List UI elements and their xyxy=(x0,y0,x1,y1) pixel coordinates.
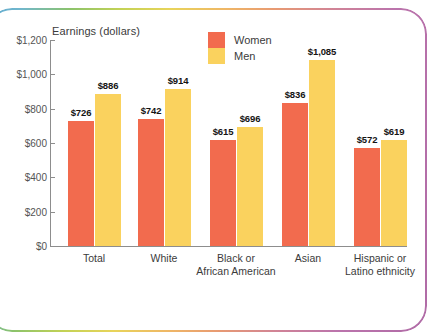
bar-women[interactable] xyxy=(210,140,236,246)
x-axis-label-line: African American xyxy=(196,265,275,278)
bar-value-label: $615 xyxy=(213,126,234,137)
legend-swatch-icon xyxy=(208,32,225,48)
x-axis-category-label: Black orAfrican American xyxy=(196,252,275,277)
bar-value-label: $726 xyxy=(71,107,92,118)
x-axis-category-label: Hispanic orLatino ethnicity xyxy=(345,252,415,277)
bar-women[interactable] xyxy=(68,121,94,246)
bar-men[interactable] xyxy=(165,89,191,246)
bar-men[interactable] xyxy=(381,140,407,246)
x-axis-label-line: White xyxy=(151,252,178,265)
x-axis-label-line: Total xyxy=(83,252,105,265)
bar-value-label: $1,085 xyxy=(308,46,336,57)
chart-legend: WomenMen xyxy=(208,32,272,64)
x-axis-category-label: White xyxy=(151,252,178,265)
bar-value-label: $836 xyxy=(285,89,306,100)
legend-item-label: Men xyxy=(234,50,255,62)
x-axis-label-line: Hispanic or xyxy=(345,252,415,265)
y-axis-tick xyxy=(50,246,55,247)
bar-group: $742$914 xyxy=(138,40,191,246)
legend-swatch-icon xyxy=(208,48,225,64)
bar-value-label: $914 xyxy=(168,75,189,86)
y-axis-tick-label: $600 xyxy=(1,138,47,149)
x-axis-category-label: Total xyxy=(83,252,105,265)
x-axis-label-line: Black or xyxy=(196,252,275,265)
bar-women[interactable] xyxy=(138,119,164,246)
y-axis-tick-label: $200 xyxy=(1,206,47,217)
x-axis-category-label: Asian xyxy=(295,252,321,265)
bar-value-label: $886 xyxy=(98,80,119,91)
bar-men[interactable] xyxy=(95,94,121,246)
bar-value-label: $572 xyxy=(357,134,378,145)
x-axis-line xyxy=(50,246,407,247)
bar-women[interactable] xyxy=(282,103,308,247)
plot-area: $726$886$742$914$615$696$836$1,085$572$6… xyxy=(50,40,418,246)
x-axis-label-line: Asian xyxy=(295,252,321,265)
bar-group: $836$1,085 xyxy=(282,40,335,246)
y-axis-tick-label: $1,200 xyxy=(1,35,47,46)
y-axis-tick-label: $0 xyxy=(1,241,47,252)
bar-men[interactable] xyxy=(237,127,263,246)
x-axis-label-line: Latino ethnicity xyxy=(345,265,415,278)
bar-value-label: $696 xyxy=(240,113,261,124)
legend-item-label: Women xyxy=(234,34,272,46)
legend-item-men[interactable]: Men xyxy=(208,48,272,64)
bar-value-label: $619 xyxy=(384,126,405,137)
y-axis-tick-label: $400 xyxy=(1,172,47,183)
bar-women[interactable] xyxy=(354,148,380,246)
bar-group: $572$619 xyxy=(354,40,407,246)
chart-title: Earnings (dollars) xyxy=(52,25,140,37)
bar-value-label: $742 xyxy=(141,105,162,116)
bar-men[interactable] xyxy=(309,60,335,246)
bar-group: $726$886 xyxy=(68,40,121,246)
y-axis-tick-label: $1,000 xyxy=(1,69,47,80)
legend-item-women[interactable]: Women xyxy=(208,32,272,48)
bar-group: $615$696 xyxy=(210,40,263,246)
y-axis-tick-label: $800 xyxy=(1,103,47,114)
